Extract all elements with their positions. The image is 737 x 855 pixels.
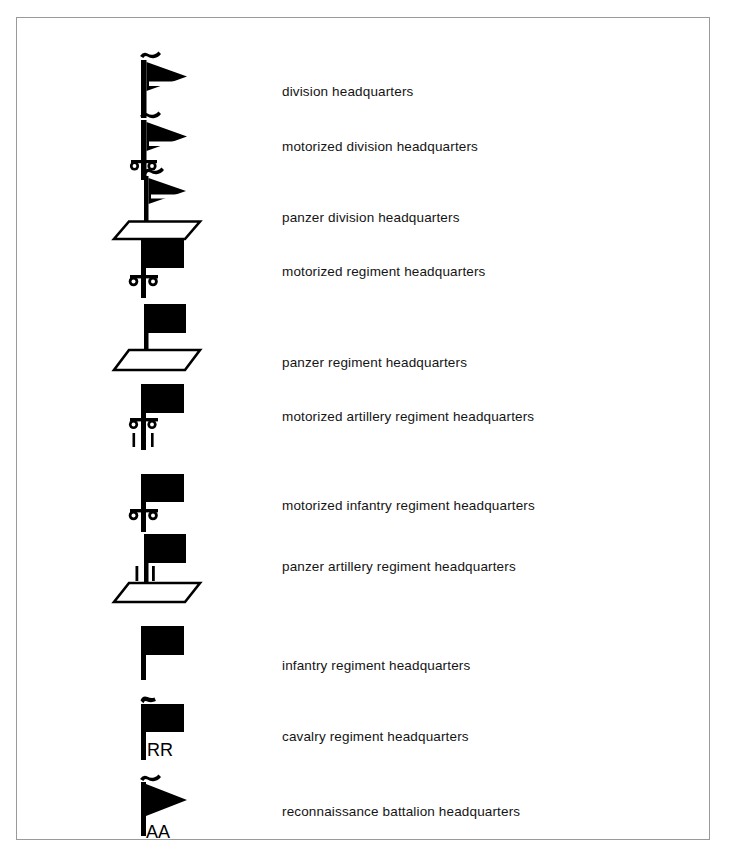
symbol-infantry-regiment-headquarters <box>127 622 237 684</box>
legend-label: reconnaissance battalion headquarters <box>282 804 520 819</box>
legend-label: division headquarters <box>282 84 413 99</box>
symbol-annotation: RR <box>147 740 173 760</box>
symbol-panzer-regiment-headquarters <box>112 300 222 382</box>
legend-label: panzer division headquarters <box>282 210 460 225</box>
legend-label: panzer regiment headquarters <box>282 355 467 370</box>
legend-list: division headquarters <box>17 18 709 839</box>
legend-label: infantry regiment headquarters <box>282 658 470 673</box>
symbol-motorized-artillery-regiment-headquarters <box>127 380 237 456</box>
symbol-motorized-regiment-headquarters <box>127 236 237 302</box>
symbol-cavalry-regiment-headquarters: RR <box>127 694 237 766</box>
legend-label: motorized infantry regiment headquarters <box>282 498 535 513</box>
legend-label: motorized regiment headquarters <box>282 264 486 279</box>
legend-frame: division headquarters <box>16 17 710 840</box>
symbol-annotation: AA <box>146 822 170 842</box>
legend-label: panzer artillery regiment headquarters <box>282 559 516 574</box>
symbol-motorized-infantry-regiment-headquarters <box>127 470 237 536</box>
legend-label: cavalry regiment headquarters <box>282 729 469 744</box>
legend-label: motorized division headquarters <box>282 139 478 154</box>
symbol-reconnaissance-battalion-headquarters: AA <box>127 774 237 852</box>
symbol-panzer-division-headquarters <box>112 166 222 244</box>
legend-label: motorized artillery regiment headquarter… <box>282 409 534 424</box>
symbol-panzer-artillery-regiment-headquarters <box>112 530 222 616</box>
